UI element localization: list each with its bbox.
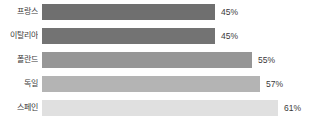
bar-track: 55% <box>42 52 314 68</box>
bar-track: 45% <box>42 28 314 44</box>
bar-track: 57% <box>42 76 314 92</box>
bar <box>42 76 260 92</box>
bar <box>42 28 215 44</box>
category-label: 독일 <box>0 79 38 89</box>
bar-track: 45% <box>42 4 314 20</box>
bar-track: 61% <box>42 100 314 116</box>
value-label: 57% <box>266 79 283 89</box>
value-label: 61% <box>284 103 301 113</box>
category-label: 폴란드 <box>0 55 38 65</box>
bar-row: 스페인61% <box>0 100 314 116</box>
value-label: 55% <box>258 55 275 65</box>
value-label: 45% <box>221 7 238 17</box>
category-label: 이탈리아 <box>0 31 38 41</box>
bar <box>42 100 278 116</box>
category-label: 프랑스 <box>0 7 38 17</box>
value-label: 45% <box>221 31 238 41</box>
bar-row: 프랑스45% <box>0 4 314 20</box>
category-label: 스페인 <box>0 103 38 113</box>
bar-chart: 프랑스45%이탈리아45%폴란드55%독일57%스페인61% <box>0 0 314 136</box>
bar-row: 독일57% <box>0 76 314 92</box>
bar-row: 폴란드55% <box>0 52 314 68</box>
bar-row: 이탈리아45% <box>0 28 314 44</box>
bar <box>42 4 215 20</box>
bar <box>42 52 252 68</box>
